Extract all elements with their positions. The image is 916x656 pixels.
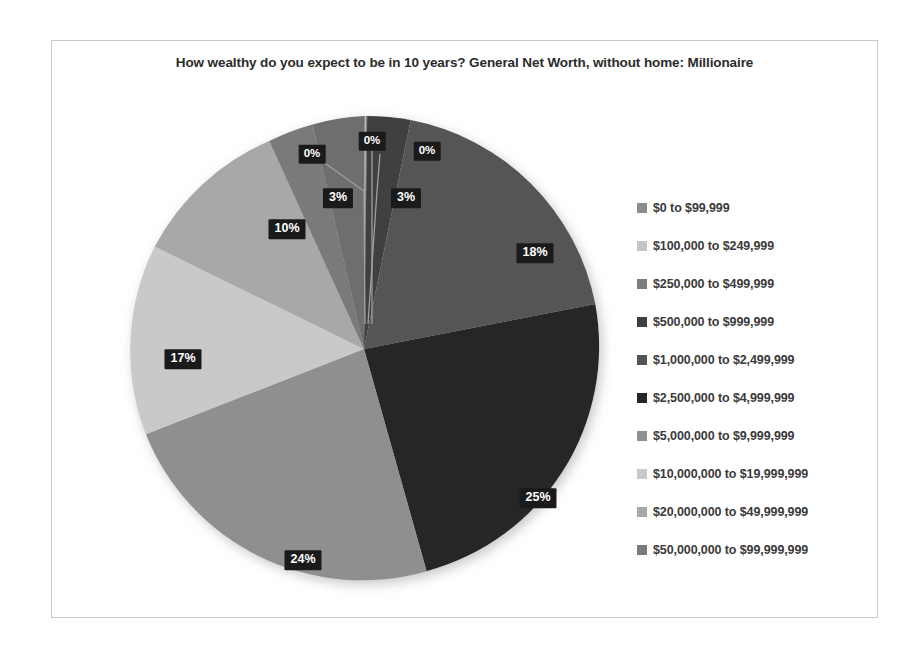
legend-swatch-icon xyxy=(637,469,647,479)
legend-label: $10,000,000 to $19,999,999 xyxy=(653,467,808,481)
data-label-10pct: 10% xyxy=(268,219,305,239)
legend-item-4[interactable]: $1,000,000 to $2,499,999 xyxy=(637,341,877,379)
chart-title: How wealthy do you expect to be in 10 ye… xyxy=(52,55,877,70)
legend-item-6[interactable]: $5,000,000 to $9,999,999 xyxy=(637,417,877,455)
data-label-0pct-middle: 0% xyxy=(359,132,386,151)
data-label-3pct-right: 3% xyxy=(391,188,421,208)
legend-swatch-icon xyxy=(637,355,647,365)
legend-item-5[interactable]: $2,500,000 to $4,999,999 xyxy=(637,379,877,417)
legend-swatch-icon xyxy=(637,203,647,213)
legend-item-2[interactable]: $250,000 to $499,999 xyxy=(637,265,877,303)
data-label-0pct-left: 0% xyxy=(299,145,326,164)
legend-swatch-icon xyxy=(637,431,647,441)
legend-item-0[interactable]: $0 to $99,999 xyxy=(637,189,877,227)
pie-chart: 0% 0% 0% 3% 3% 18% 25% 24% 17% 10% xyxy=(109,91,629,601)
data-label-17pct: 17% xyxy=(164,349,201,369)
legend-label: $250,000 to $499,999 xyxy=(653,277,774,291)
pie-svg xyxy=(109,91,629,601)
legend-label: $100,000 to $249,999 xyxy=(653,239,774,253)
pie-slices-group xyxy=(130,116,599,580)
legend-swatch-icon xyxy=(637,279,647,289)
legend-item-3[interactable]: $500,000 to $999,999 xyxy=(637,303,877,341)
legend-swatch-icon xyxy=(637,241,647,251)
legend-item-8[interactable]: $20,000,000 to $49,999,999 xyxy=(637,493,877,531)
legend-label: $500,000 to $999,999 xyxy=(653,315,774,329)
legend-swatch-icon xyxy=(637,545,647,555)
legend-label: $0 to $99,999 xyxy=(653,201,730,215)
data-label-0pct-right: 0% xyxy=(414,142,441,161)
legend-item-1[interactable]: $100,000 to $249,999 xyxy=(637,227,877,265)
legend-item-9[interactable]: $50,000,000 to $99,999,999 xyxy=(637,531,877,569)
data-label-18pct: 18% xyxy=(516,243,553,263)
legend-item-7[interactable]: $10,000,000 to $19,999,999 xyxy=(637,455,877,493)
chart-legend: $0 to $99,999 $100,000 to $249,999 $250,… xyxy=(637,189,877,569)
legend-label: $5,000,000 to $9,999,999 xyxy=(653,429,794,443)
legend-swatch-icon xyxy=(637,317,647,327)
legend-swatch-icon xyxy=(637,393,647,403)
data-label-3pct-left: 3% xyxy=(323,188,353,208)
chart-frame: How wealthy do you expect to be in 10 ye… xyxy=(51,40,878,618)
legend-label: $20,000,000 to $49,999,999 xyxy=(653,505,808,519)
data-label-24pct: 24% xyxy=(284,550,321,570)
legend-swatch-icon xyxy=(637,507,647,517)
legend-label: $50,000,000 to $99,999,999 xyxy=(653,543,808,557)
legend-label: $2,500,000 to $4,999,999 xyxy=(653,391,794,405)
legend-label: $1,000,000 to $2,499,999 xyxy=(653,353,794,367)
data-label-25pct: 25% xyxy=(519,488,556,508)
